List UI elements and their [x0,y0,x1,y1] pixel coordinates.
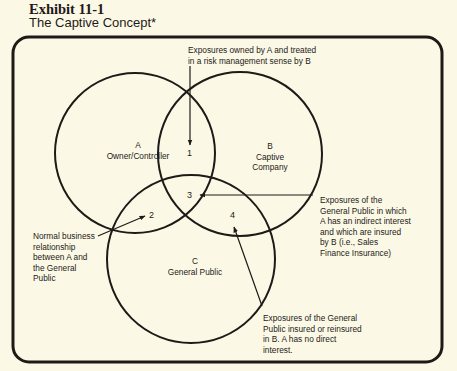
circle-c-label: C General Public [140,256,250,277]
annotation-right-line: Finance Insurance) [320,248,411,259]
circle-c-name: General Public [140,267,250,278]
circle-b-name-line1: Captive [240,152,300,163]
annotation-left-line: Public [33,273,95,284]
region-2-number: 2 [149,210,154,220]
annotation-bottom-line: Public insured or reinsured [263,324,362,335]
annotation-top-line: in a risk management sense by B [188,56,316,67]
annotation-left-line: relationship [33,242,95,253]
annotation-bottom: Exposures of the General Public insured … [263,313,362,355]
circle-b-name-line2: Company [240,162,300,173]
annotation-top: Exposures owned by A and treated in a ri… [188,45,316,66]
region-3-number: 3 [187,190,192,200]
annotation-left: Normal business relationship between A a… [33,231,95,284]
annotation-bottom-line: interest. [263,345,362,356]
circle-b-label: B Captive Company [240,141,300,173]
region-4-number: 4 [230,210,235,220]
region-1-number: 1 [187,148,192,158]
annotation-right-line: Exposures of the [320,195,411,206]
circle-b-letter: B [240,141,300,152]
annotation-right-line: and which are insured [320,227,411,238]
annotation-bottom-line: Exposures of the General [263,313,362,324]
annotation-right-line: A has an indirect interest [320,216,411,227]
annotation-bottom-line: in B. A has no direct [263,334,362,345]
circle-a-name: Owner/Controller [88,151,188,162]
annotation-right: Exposures of the General Public in which… [320,195,411,259]
annotation-top-line: Exposures owned by A and treated [188,45,316,56]
annotation-right-line: General Public in which [320,206,411,217]
annotation-left-line: between A and [33,252,95,263]
circle-c-letter: C [140,256,250,267]
circle-a-label: A Owner/Controller [88,140,188,161]
circle-a-letter: A [88,140,188,151]
annotation-right-line: by B (i.e., Sales [320,237,411,248]
annotation-left-line: Normal business [33,231,95,242]
annotation-left-line: the General [33,263,95,274]
